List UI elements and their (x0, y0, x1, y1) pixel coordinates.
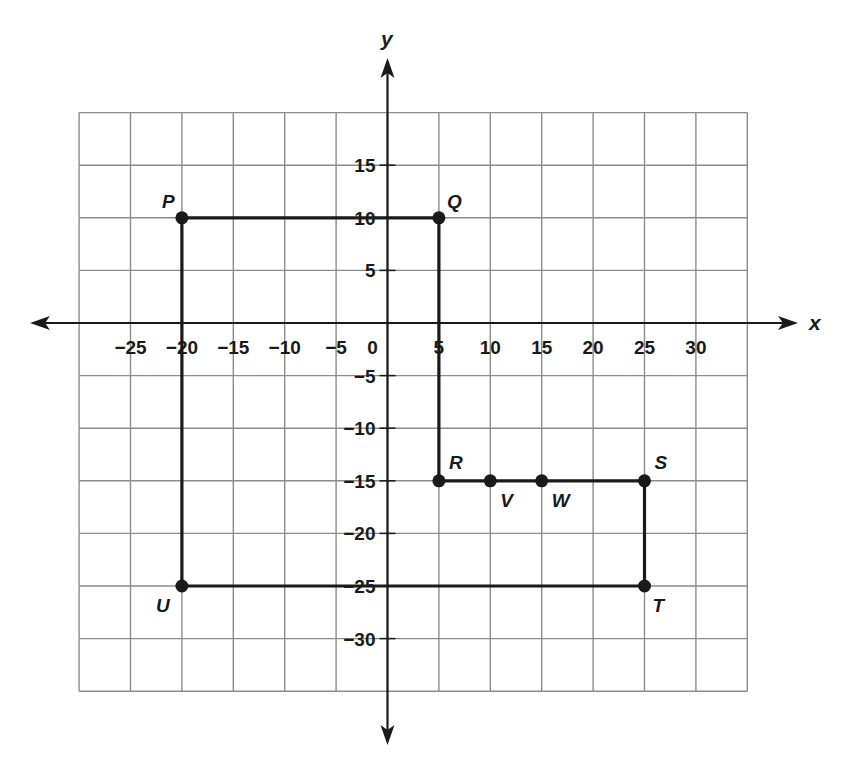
point-p-dot (175, 211, 188, 224)
axes (30, 58, 798, 745)
point-q-dot (432, 211, 445, 224)
x-axis-label: x (808, 311, 822, 334)
y-tick-label: 5 (365, 260, 376, 281)
point-u-dot (175, 580, 188, 593)
x-tick-label: −5 (325, 337, 347, 358)
x-tick-label: 30 (685, 337, 706, 358)
point-s-dot (638, 474, 651, 487)
figure-outline (182, 218, 645, 586)
point-w-label: W (552, 490, 572, 511)
point-r-label: R (449, 452, 463, 473)
coordinate-plane: −25−20−15−10−505101520253015105−5−10−15−… (0, 0, 845, 770)
point-p-label: P (162, 191, 175, 212)
y-tick-label: −15 (343, 471, 376, 492)
x-tick-label: 25 (634, 337, 656, 358)
x-tick-label: 0 (367, 337, 378, 358)
point-s-label: S (655, 452, 668, 473)
y-axis-label: y (380, 27, 394, 50)
point-v-label: V (500, 490, 514, 511)
point-t-label: T (653, 595, 666, 616)
y-tick-label: 15 (354, 155, 376, 176)
x-tick-label: −15 (217, 337, 250, 358)
polygon-shape (182, 218, 645, 586)
x-tick-label: 15 (531, 337, 553, 358)
point-r-dot (432, 474, 445, 487)
y-tick-label: −10 (343, 418, 375, 439)
point-v-dot (484, 474, 497, 487)
point-w-dot (535, 474, 548, 487)
x-tick-label: −25 (114, 337, 147, 358)
x-tick-label: −10 (269, 337, 301, 358)
tick-labels: −25−20−15−10−505101520253015105−5−10−15−… (114, 155, 706, 649)
point-q-label: Q (447, 191, 462, 212)
y-tick-label: −5 (354, 366, 376, 387)
point-t-dot (638, 580, 651, 593)
y-tick-label: −20 (343, 523, 375, 544)
y-tick-label: −30 (343, 629, 375, 650)
x-tick-label: 20 (583, 337, 604, 358)
grid-lines (79, 113, 747, 692)
x-tick-label: 10 (480, 337, 501, 358)
point-u-label: U (156, 595, 171, 616)
